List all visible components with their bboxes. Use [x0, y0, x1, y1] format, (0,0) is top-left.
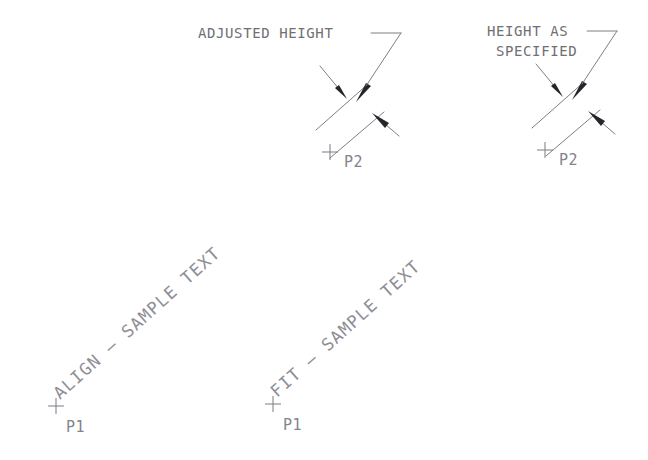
- adjusted-height-leader: [366, 33, 401, 86]
- technical-drawing: ALIGN — SAMPLE TEXT P1 P2: [0, 0, 648, 460]
- fit-arrow-upper-left: [536, 64, 563, 97]
- align-sample-text-group: ALIGN — SAMPLE TEXT: [49, 243, 224, 403]
- align-sample-text: ALIGN — SAMPLE TEXT: [49, 243, 224, 403]
- fit-height-extent-lines: [532, 82, 600, 156]
- fit-sample-text: FIT — SAMPLE TEXT: [266, 256, 424, 401]
- fit-p2-marker: [537, 142, 553, 158]
- fit-sample-text-group: FIT — SAMPLE TEXT: [266, 256, 424, 401]
- align-p1-label: P1: [66, 418, 85, 436]
- align-p2-label: P2: [344, 153, 363, 171]
- align-arrow-upper-left: [320, 66, 347, 99]
- height-as-specified-label-line1: HEIGHT AS: [487, 23, 568, 39]
- drawing-canvas: ALIGN — SAMPLE TEXT P1 P2: [0, 0, 648, 460]
- align-height-extent-lines: [316, 84, 384, 158]
- fit-arrow-lower-right: [588, 111, 615, 134]
- height-as-specified-leader: [582, 31, 617, 84]
- height-as-specified-label-line2: SPECIFIED: [496, 43, 577, 59]
- adjusted-height-label: ADJUSTED HEIGHT: [198, 25, 333, 41]
- fit-p2-label: P2: [559, 151, 578, 169]
- align-arrow-lower-right: [372, 113, 399, 136]
- fit-p1-label: P1: [283, 416, 302, 434]
